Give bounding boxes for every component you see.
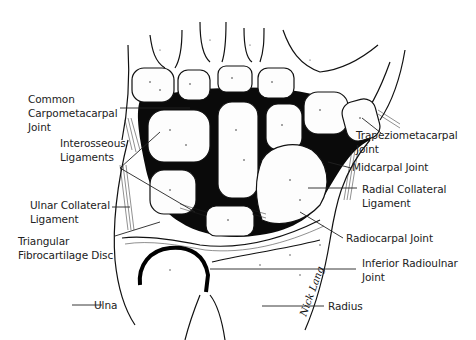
label-triangular-fibrocartilage-disc: Triangular Fibrocartilage Disc [18,234,113,262]
label-inferior-radioulnar-joint: Inferior Radioulnar Joint [362,256,458,284]
label-common-carpometacarpal-joint: Common Carpometacarpal Joint [28,92,117,134]
label-trapeziometacarpal-joint: Trapeziometacarpal Joint [356,128,458,156]
label-radius: Radius [328,299,363,313]
label-radiocarpal-joint: Radiocarpal Joint [346,231,433,245]
label-radial-collateral-ligament: Radial Collateral Ligament [362,182,446,210]
label-ulna: Ulna [94,298,117,312]
label-midcarpal-joint: Midcarpal Joint [352,160,428,174]
label-interosseous-ligaments: Interosseous Ligaments [60,136,126,164]
artist-signature: Nick Lang [297,265,326,319]
label-ulnar-collateral-ligament: Ulnar Collateral Ligament [30,198,110,226]
